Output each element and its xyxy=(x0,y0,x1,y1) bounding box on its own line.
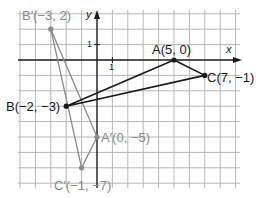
original-triangle-edges xyxy=(66,60,205,106)
point-labels: B′(−3, 2) A(5, 0) C(7, −1) B(−2, −3) A′(… xyxy=(6,8,254,193)
label-c: C(7, −1) xyxy=(207,70,254,85)
x-tick-1: 1 xyxy=(109,62,114,72)
point-c-prime xyxy=(79,165,84,170)
label-b: B(−2, −3) xyxy=(6,99,60,114)
point-b-prime xyxy=(48,27,53,32)
x-axis-label: x xyxy=(225,43,232,55)
point-a xyxy=(171,57,176,62)
y-tick-1: 1 xyxy=(87,39,92,49)
label-a-prime: A′(0, −5) xyxy=(101,130,150,145)
original-triangle xyxy=(64,57,208,108)
point-a-prime xyxy=(94,134,99,139)
label-b-prime: B′(−3, 2) xyxy=(22,8,71,23)
point-b xyxy=(64,104,69,109)
y-axis-arrow-icon xyxy=(94,10,100,19)
x-axis-arrow-icon xyxy=(233,57,242,63)
coordinate-plane: B′(−3, 2) A(5, 0) C(7, −1) B(−2, −3) A′(… xyxy=(0,0,260,198)
label-a: A(5, 0) xyxy=(152,42,191,57)
label-c-prime: C′(−1, −7) xyxy=(54,178,111,193)
